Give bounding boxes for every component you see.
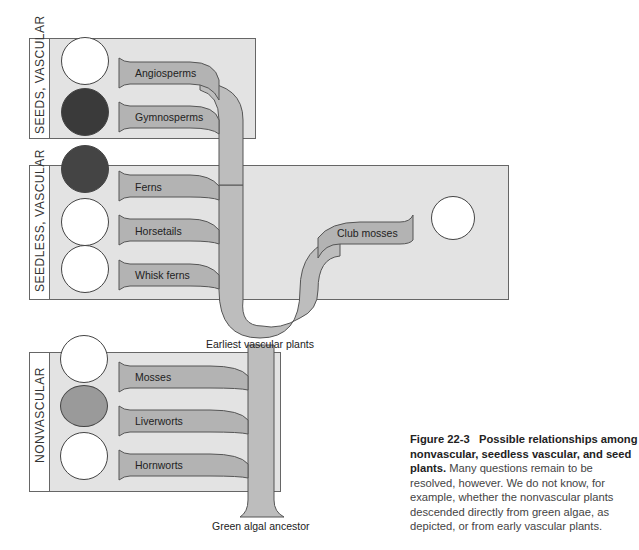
trunk-seeds	[200, 82, 243, 185]
hornwort-icon	[60, 432, 108, 480]
label-ferns: Ferns	[135, 181, 162, 193]
flower-icon	[61, 37, 109, 85]
figure-number: Figure 22-3	[410, 433, 470, 445]
horsetail-icon	[61, 198, 109, 246]
moss-icon	[60, 335, 108, 383]
label-liverworts: Liverworts	[135, 415, 183, 427]
conifer-cone-icon	[61, 88, 109, 136]
label-horsetails: Horsetails	[135, 225, 182, 237]
liverwort-icon	[60, 385, 108, 427]
label-gymnosperms: Gymnosperms	[135, 111, 203, 123]
vascular-u-junction	[219, 185, 340, 338]
whisk-fern-icon	[61, 245, 109, 293]
branch-ferns	[119, 171, 219, 201]
label-green-algal-ancestor: Green algal ancestor	[212, 520, 309, 532]
label-angiosperms: Angiosperms	[135, 67, 196, 79]
label-mosses: Mosses	[135, 371, 171, 383]
branch-angiosperms	[119, 58, 219, 100]
label-whisk-ferns: Whisk ferns	[135, 269, 190, 281]
label-club-mosses: Club mosses	[337, 227, 398, 239]
club-moss-icon	[431, 196, 475, 240]
fern-frond-icon	[61, 145, 109, 193]
label-hornworts: Hornworts	[135, 459, 183, 471]
figure-caption: Figure 22-3 Possible relationships among…	[410, 432, 639, 534]
label-earliest-vascular-plants: Earliest vascular plants	[206, 338, 314, 350]
